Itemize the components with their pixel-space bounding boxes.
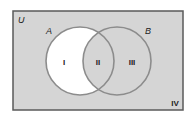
region-ii-label: II — [96, 58, 100, 67]
universe-label: U — [18, 15, 25, 25]
set-a-label: A — [45, 26, 52, 36]
region-iv-label: IV — [171, 99, 179, 108]
region-i-label: I — [63, 58, 65, 67]
set-b-label: B — [145, 26, 151, 36]
venn-diagram: U A B I II III IV — [0, 0, 190, 117]
region-iii-label: III — [129, 58, 136, 67]
